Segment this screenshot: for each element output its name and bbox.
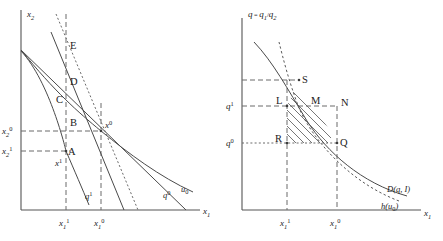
right-horizontal-guides [242,80,337,143]
marker-x1-point-a [65,150,68,153]
curve-label-q1: q1 [85,190,92,201]
left-panel-indifference-curve-diagram: x2 x1 E D C B A x0 x1 x20 x21 x11 x10 q1… [0,0,222,241]
curve-label-u0: u0 [181,184,188,195]
marker-Q [336,142,339,145]
point-label-C: C [56,94,63,105]
y-tick-label-q1: q1 [226,100,234,111]
right-panel-demand-curve-diagram: q = q1/q2 x1 S L M N R Q q1 q0 x11 x10 D… [221,0,443,241]
marshallian-demand-curve [254,42,407,196]
point-label-R: R [275,133,282,144]
marker-R [286,142,289,145]
point-label-D: D [70,76,78,87]
x-tick-label-x1-zero: x10 [93,217,104,230]
point-label-S: S [302,74,308,85]
y-tick-label-q0: q0 [226,137,234,148]
bundle-label-x0: x0 [104,119,112,130]
point-label-E: E [70,40,76,51]
indifference-curve-lower [21,51,89,205]
hicksian-demand-curve [279,42,399,201]
bundle-label-x1: x1 [54,157,62,168]
x-tick-label-x1-zero: x10 [329,217,340,230]
x-tick-label-x1-one: x11 [279,217,290,230]
right-axes [242,18,421,210]
point-label-Q: Q [340,137,348,148]
left-axes [21,10,200,210]
point-label-A: A [68,146,76,157]
point-label-M: M [311,95,321,106]
left-x-axis-label: x1 [202,206,210,218]
marker-L [286,105,289,108]
point-label-L: L [276,95,282,106]
figure-root: x2 x1 E D C B A x0 x1 x20 x21 x11 x10 q1… [0,0,443,241]
budget-line-q1-dotted [56,14,138,210]
point-label-N: N [341,97,349,108]
marker-S [298,79,301,82]
budget-line-q0 [21,50,186,210]
curve-label-q0: q0 [163,189,170,200]
left-y-axis-label: x2 [26,9,35,21]
marker-x0 [100,130,103,133]
right-x-axis-label: x1 [423,208,431,220]
budget-line-q1-compensated [51,32,124,210]
y-tick-label-x2-one: x21 [1,145,12,158]
right-y-axis-label: q = q1/q2 [248,9,277,21]
curve-label-marshallian-demand: D(q, I) [386,184,410,194]
curve-label-hicksian-demand: h(u0) [381,201,399,212]
y-tick-label-x2-zero: x20 [1,125,12,138]
x-tick-label-x1-one: x11 [58,217,69,230]
point-label-B: B [70,117,77,128]
hatched-surplus-region [261,40,371,191]
